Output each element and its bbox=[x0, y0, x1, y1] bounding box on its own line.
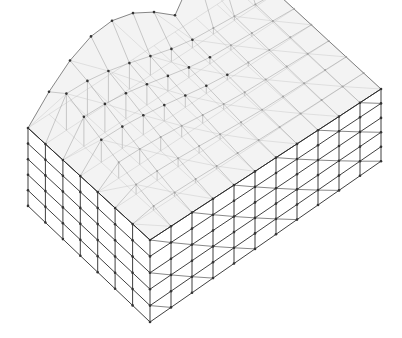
wall-chord bbox=[133, 273, 150, 289]
lattice-node bbox=[96, 223, 99, 226]
lattice-node bbox=[184, 94, 187, 97]
wall-chord bbox=[80, 224, 97, 240]
wall-chord bbox=[276, 189, 297, 203]
wall-chord bbox=[339, 117, 360, 131]
lattice-node bbox=[233, 15, 235, 17]
lattice-node bbox=[62, 190, 65, 193]
lattice-node bbox=[338, 130, 341, 133]
wall-diagonal bbox=[171, 243, 192, 245]
lattice-node bbox=[153, 205, 155, 207]
lattice-node bbox=[296, 158, 299, 161]
wall-chord bbox=[234, 218, 255, 232]
lattice-node bbox=[191, 243, 194, 246]
lattice-node bbox=[240, 121, 242, 123]
lattice-node bbox=[135, 184, 137, 186]
lattice-node bbox=[118, 161, 120, 163]
lattice-node bbox=[191, 259, 194, 262]
lattice-node bbox=[223, 103, 225, 105]
lattice-node bbox=[254, 170, 257, 173]
lattice-node bbox=[303, 82, 305, 84]
lattice-node bbox=[268, 49, 270, 51]
lattice-node bbox=[79, 175, 82, 178]
wall-chord bbox=[171, 245, 192, 259]
wall-chord bbox=[98, 208, 115, 224]
wall-diagonal bbox=[276, 158, 297, 160]
lattice-node bbox=[188, 66, 191, 69]
lattice-node bbox=[300, 113, 302, 115]
wall-chord bbox=[133, 257, 150, 273]
wall-chord bbox=[45, 207, 63, 224]
wall-chord bbox=[115, 240, 133, 256]
wall-chord bbox=[297, 190, 318, 204]
lattice-node bbox=[170, 306, 173, 309]
lattice-node bbox=[69, 59, 72, 62]
wall-chord bbox=[150, 307, 171, 322]
lattice-node bbox=[62, 175, 65, 178]
lattice-node bbox=[131, 304, 134, 307]
lattice-node bbox=[216, 165, 218, 167]
lattice-node bbox=[131, 223, 134, 226]
lattice-node bbox=[191, 275, 194, 278]
wall-chord bbox=[150, 291, 171, 305]
lattice-node bbox=[237, 152, 239, 154]
lattice-node bbox=[254, 217, 257, 220]
wall-chord bbox=[150, 259, 171, 273]
lattice-node bbox=[132, 12, 135, 15]
lattice-node bbox=[44, 174, 47, 177]
wall-chord bbox=[255, 173, 276, 187]
lattice-node bbox=[289, 36, 291, 38]
wall-chord bbox=[115, 289, 133, 306]
lattice-node bbox=[96, 191, 99, 194]
lattice-node bbox=[128, 62, 131, 65]
lattice-node bbox=[146, 83, 149, 86]
wall-diagonal bbox=[213, 215, 234, 217]
lattice-node bbox=[170, 241, 173, 244]
lattice-node bbox=[247, 61, 249, 63]
lattice-node bbox=[149, 321, 152, 324]
wall-chord bbox=[133, 305, 150, 322]
lattice-node bbox=[174, 14, 177, 17]
lattice-node bbox=[321, 99, 323, 101]
wall-chord bbox=[171, 229, 192, 243]
lattice-node bbox=[338, 160, 341, 163]
lattice-node bbox=[233, 215, 236, 218]
wall-chord bbox=[45, 175, 63, 191]
wall-chord bbox=[115, 224, 133, 240]
lattice-node bbox=[191, 227, 194, 230]
lattice-node bbox=[114, 271, 117, 274]
wall-chord bbox=[63, 176, 80, 192]
lattice-node bbox=[202, 114, 204, 116]
wall-chord bbox=[63, 192, 80, 208]
wall-chord bbox=[339, 176, 360, 191]
lattice-node bbox=[317, 144, 320, 147]
lattice-node bbox=[338, 189, 341, 192]
wall-chord bbox=[28, 159, 45, 175]
space-frame-diagram bbox=[0, 0, 402, 338]
wall-chord bbox=[98, 240, 115, 256]
wall-chord bbox=[276, 220, 297, 235]
wall-diagonal bbox=[360, 103, 381, 104]
lattice-node bbox=[44, 206, 47, 209]
wall-chord bbox=[213, 201, 234, 215]
lattice-node bbox=[310, 24, 312, 26]
lattice-node bbox=[79, 254, 82, 257]
lattice-node bbox=[380, 160, 383, 163]
wall-chord bbox=[360, 118, 381, 132]
lattice-node bbox=[338, 174, 341, 177]
wall-chord bbox=[171, 293, 192, 308]
lattice-node bbox=[149, 304, 152, 307]
lattice-node bbox=[275, 202, 278, 205]
lattice-node bbox=[317, 204, 320, 207]
wall-diagonal bbox=[192, 277, 213, 278]
lattice-node bbox=[191, 292, 194, 295]
lattice-node bbox=[44, 158, 47, 161]
lattice-node bbox=[205, 85, 208, 88]
wall-chord bbox=[192, 215, 213, 229]
wall-chord bbox=[63, 207, 80, 223]
lattice-node bbox=[96, 239, 99, 242]
lattice-node bbox=[296, 188, 299, 191]
lattice-node bbox=[296, 143, 299, 146]
lattice-node bbox=[254, 232, 257, 235]
wall-chord bbox=[45, 191, 63, 207]
lattice-node bbox=[104, 103, 107, 106]
